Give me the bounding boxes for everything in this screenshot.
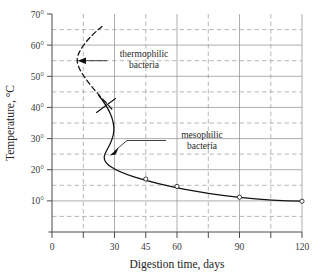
x-axis-title: Digestion time, days bbox=[130, 258, 225, 271]
x-axis-ticks bbox=[52, 232, 302, 238]
mesophilic-annotation: mesophilic bacteria bbox=[110, 130, 223, 155]
thermophilic-label-line2: bacteria bbox=[129, 60, 160, 70]
y-tick-label-40: 40° bbox=[31, 103, 45, 113]
thermophilic-label-line1: thermophilic bbox=[120, 49, 169, 59]
mesophilic-label-line2: bacteria bbox=[187, 141, 218, 151]
x-tick-label-60: 60 bbox=[172, 242, 182, 252]
mesophilic-leader-line-diagonal bbox=[114, 141, 127, 152]
x-tick-label-90: 90 bbox=[235, 242, 245, 252]
data-point-marker bbox=[175, 184, 179, 188]
digestion-time-temperature-chart: 70° 60° 50° 40° 30° 20° 10° 0 30 45 60 9… bbox=[0, 0, 316, 279]
thermophilic-curve bbox=[77, 26, 113, 110]
mesophilic-arrowhead-icon bbox=[110, 148, 119, 155]
x-tick-labels: 0 30 45 60 90 120 bbox=[50, 242, 310, 252]
y-tick-labels: 70° 60° 50° 40° 30° 20° 10° bbox=[31, 10, 45, 207]
y-axis-ticks bbox=[47, 14, 52, 232]
data-point-marker bbox=[144, 177, 148, 181]
y-axis-title: Temperature, °C bbox=[4, 85, 17, 161]
y-tick-label-50: 50° bbox=[31, 72, 45, 82]
mesophilic-data-markers bbox=[144, 177, 304, 203]
thermophilic-arrowhead-icon bbox=[78, 57, 86, 64]
y-tick-label-60: 60° bbox=[31, 41, 45, 51]
y-tick-label-20: 20° bbox=[31, 165, 45, 175]
mesophilic-label-line1: mesophilic bbox=[181, 130, 223, 140]
x-tick-label-120: 120 bbox=[295, 242, 310, 252]
data-point-marker bbox=[237, 195, 241, 199]
x-tick-label-30: 30 bbox=[110, 242, 120, 252]
data-point-marker bbox=[300, 199, 304, 203]
x-tick-label-45: 45 bbox=[141, 242, 151, 252]
y-tick-label-30: 30° bbox=[31, 134, 45, 144]
thermophilic-annotation: thermophilic bacteria bbox=[78, 49, 169, 70]
y-tick-label-70: 70° bbox=[31, 10, 45, 20]
x-tick-label-0: 0 bbox=[50, 242, 55, 252]
y-tick-label-10: 10° bbox=[31, 196, 45, 206]
chart-figure: 70° 60° 50° 40° 30° 20° 10° 0 30 45 60 9… bbox=[0, 0, 316, 279]
